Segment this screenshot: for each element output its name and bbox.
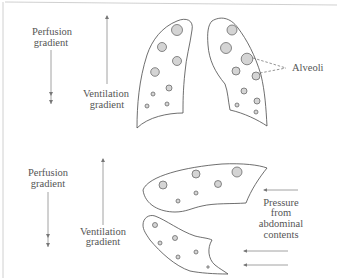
alveolus-icon: [166, 85, 172, 91]
upright-left-lung: [137, 19, 192, 128]
alveolus-icon: [151, 68, 160, 77]
alveolus-icon: [145, 104, 149, 108]
top-border: [5, 2, 337, 5]
alveolus-icon: [241, 53, 253, 65]
alveolus-icon: [194, 191, 198, 195]
pressure-label-line4: contents: [264, 229, 299, 240]
alveolus-icon: [173, 57, 182, 66]
lung-ventilation-perfusion-diagram: Perfusion gradient Ventilation gradient …: [0, 0, 337, 278]
supine-ventilation-label-line2: gradient: [86, 236, 120, 247]
alveolus-icon: [235, 103, 239, 107]
alveolus-icon: [254, 110, 258, 114]
pressure-arrow-bottom-icon: [243, 263, 288, 267]
upright-ventilation-label-line1: Ventilation: [83, 88, 130, 99]
supine-section: Perfusion gradient Ventilation gradient …: [28, 158, 303, 274]
alveoli-leader-line-2: [260, 68, 286, 73]
alveolus-icon: [151, 92, 155, 96]
alveolus-icon: [172, 25, 183, 36]
pressure-arrow-top-icon: [263, 188, 298, 192]
alveolus-icon: [241, 88, 247, 94]
supine-ventilation-arrow-icon: [101, 158, 105, 225]
alveolus-icon: [252, 72, 260, 80]
upright-perfusion-label-line1: Perfusion: [32, 26, 73, 37]
alveolus-icon: [153, 223, 158, 228]
upright-section: Perfusion gradient Ventilation gradient …: [32, 15, 324, 128]
upright-perfusion-label-line2: gradient: [34, 37, 68, 48]
alveoli-label: Alveoli: [292, 62, 324, 73]
alveolus-icon: [232, 167, 242, 177]
alveolus-icon: [159, 181, 167, 189]
pressure-label-line3: abdominal: [259, 218, 303, 229]
upright-ventilation-label-line2: gradient: [90, 99, 124, 110]
alveolus-icon: [176, 199, 180, 203]
alveolus-icon: [194, 250, 198, 254]
supine-perfusion-arrow-icon: [46, 192, 50, 247]
supine-perfusion-label-line1: Perfusion: [28, 167, 69, 178]
pressure-label-line2: from: [271, 207, 291, 218]
alveolus-icon: [158, 241, 162, 245]
alveolus-icon: [207, 266, 209, 268]
alveolus-icon: [173, 236, 178, 241]
alveolus-icon: [227, 25, 237, 35]
upright-perfusion-arrow-icon: [49, 50, 53, 104]
alveolus-icon: [158, 43, 167, 52]
supine-perfusion-label-line2: gradient: [31, 178, 65, 189]
pressure-arrow-middle-icon: [243, 249, 288, 253]
alveolus-icon: [215, 181, 222, 188]
upright-ventilation-arrow-icon: [105, 15, 109, 84]
alveolus-icon: [192, 170, 200, 178]
alveolus-icon: [221, 43, 232, 54]
alveolus-icon: [165, 102, 169, 106]
alveolus-icon: [176, 255, 180, 259]
alveolus-icon: [254, 98, 260, 104]
alveolus-icon: [232, 67, 240, 75]
